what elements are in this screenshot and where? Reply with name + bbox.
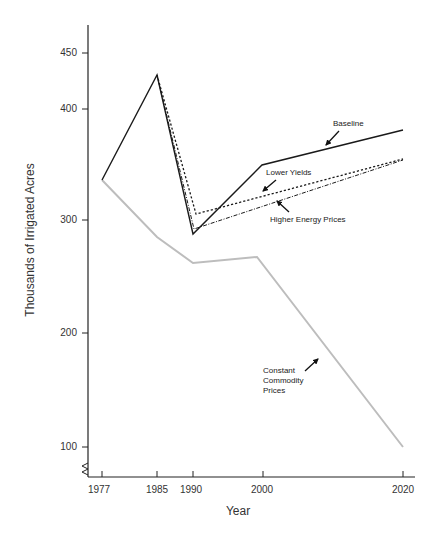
y-ticks: 450 400 300 200 100 <box>60 47 88 452</box>
x-tick-label: 2000 <box>251 484 274 495</box>
y-axis-title: Thousands of Irrigated Acres <box>23 163 37 316</box>
x-tick-label: 1990 <box>180 484 203 495</box>
line-lower-yields <box>157 75 403 214</box>
axes <box>82 25 415 477</box>
annotation-higher-energy-prices: Higher Energy Prices <box>270 215 346 224</box>
annotation-lower-yields: Lower Yields <box>266 168 311 177</box>
y-tick-label: 200 <box>60 327 77 338</box>
arrow-icon <box>326 131 339 145</box>
annotation-line: Prices <box>263 386 285 395</box>
arrow-icon <box>263 180 276 191</box>
arrow-icon <box>305 359 318 371</box>
annotation-constant-commodity-prices: Constant Commodity Prices <box>263 366 306 395</box>
x-tick-label: 1977 <box>88 484 111 495</box>
series-lines <box>102 75 403 447</box>
y-tick-label: 400 <box>60 103 77 114</box>
arrow-icon <box>277 201 289 212</box>
line-constant-commodity-prices <box>102 180 403 447</box>
irrigated-acres-chart: 450 400 300 200 100 1977 1985 1990 2000 … <box>0 0 436 534</box>
x-tick-label: 1985 <box>146 484 169 495</box>
x-axis-title: Year <box>226 504 250 518</box>
x-ticks: 1977 1985 1990 2000 2020 <box>88 471 415 495</box>
annotation-line: Commodity <box>263 376 303 385</box>
axis-break-icon <box>82 463 88 475</box>
annotation-baseline: Baseline <box>333 119 364 128</box>
annotation-line: Constant <box>263 366 296 375</box>
y-tick-label: 300 <box>60 214 77 225</box>
y-tick-label: 100 <box>60 441 77 452</box>
x-tick-label: 2020 <box>392 484 415 495</box>
y-tick-label: 450 <box>60 47 77 58</box>
